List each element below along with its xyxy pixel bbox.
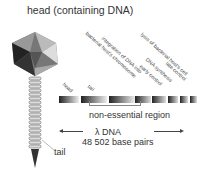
gene-label-head: head xyxy=(61,82,73,94)
gene-label-integration-line2: bacterial host's chromosome xyxy=(84,31,137,79)
left-arrow-line xyxy=(60,131,83,132)
lambda-dna-label: λ DNA xyxy=(95,127,121,137)
base-pairs-label: 48 502 base pairs xyxy=(82,137,154,147)
tail-label: tail xyxy=(54,147,66,157)
segment-head xyxy=(59,96,79,103)
right-arrow-head-icon xyxy=(180,129,184,133)
non-essential-region-brace xyxy=(89,101,141,106)
segment-late-control xyxy=(180,96,188,103)
segment-lysis xyxy=(190,96,197,103)
left-arrow-head-icon xyxy=(59,129,63,133)
page-title: head (containing DNA) xyxy=(27,4,133,16)
gene-label-tail: tail xyxy=(86,84,95,93)
segment-dna-synthesis xyxy=(168,96,178,103)
segment-early-control xyxy=(152,96,166,103)
non-essential-region-label: non-essential region xyxy=(89,110,170,120)
right-arrow-line xyxy=(154,131,181,132)
